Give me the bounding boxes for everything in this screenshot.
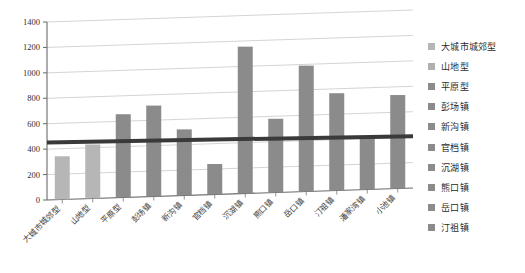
legend-item-label: 大城市城郊型 — [441, 40, 497, 53]
legend-item[interactable]: 官档镇 — [428, 137, 525, 157]
gridline — [47, 10, 413, 22]
legend-item[interactable]: 沉湖镇 — [428, 157, 525, 177]
gridline — [47, 61, 413, 73]
y-tick-label: 1200 — [23, 42, 40, 52]
svg-text:新沟镇: 新沟镇 — [160, 200, 184, 224]
x-tick-label: 小池镇 — [373, 193, 397, 217]
svg-text:潘家湾镇: 潘家湾镇 — [337, 194, 367, 224]
bar — [207, 164, 222, 195]
legend-swatch-icon — [428, 204, 435, 211]
legend-swatch-icon — [428, 83, 435, 90]
svg-text:山地型: 山地型 — [68, 203, 92, 227]
bar — [146, 106, 161, 197]
legend-swatch-icon — [428, 144, 435, 151]
svg-text:汀祖镇: 汀祖镇 — [312, 195, 336, 219]
svg-text:沉湖镇: 沉湖镇 — [221, 198, 245, 222]
y-tick-label: 0 — [36, 195, 40, 205]
svg-text:大城市城郊型: 大城市城郊型 — [21, 204, 62, 245]
legend-item[interactable]: 新沟镇 — [428, 117, 525, 137]
legend-swatch-icon — [428, 63, 435, 70]
gridline — [47, 163, 413, 175]
legend-item-label: 平原型 — [441, 80, 469, 93]
bar — [85, 144, 100, 198]
bar — [299, 66, 314, 192]
legend-item-label: 岳口镇 — [441, 201, 469, 214]
gridline — [47, 35, 413, 47]
y-tick-label: 400 — [27, 144, 40, 154]
bar — [116, 114, 131, 197]
svg-text:小池镇: 小池镇 — [373, 193, 397, 217]
x-tick-label: 岳口镇 — [282, 196, 306, 220]
legend-swatch-icon — [428, 123, 435, 130]
legend-item[interactable]: 彭场镇 — [428, 97, 525, 117]
bar — [55, 156, 70, 199]
x-tick-label: 汀祖镇 — [312, 195, 336, 219]
plot-area: 0200400600800100012001400大城市城郊型山地型平原型彭场镇… — [0, 0, 425, 273]
y-tick-label: 200 — [27, 170, 40, 180]
svg-text:平原型: 平原型 — [99, 203, 122, 226]
legend-item-label: 沉湖镇 — [441, 161, 469, 174]
chart-legend: 大城市城郊型 山地型 平原型 彭场镇 新沟镇 官档镇 沉湖镇 熊口镇 — [428, 36, 525, 238]
y-tick-label: 1400 — [23, 17, 40, 27]
legend-swatch-icon — [428, 184, 435, 191]
legend-item-label: 官档镇 — [441, 141, 469, 154]
legend-swatch-icon — [428, 164, 435, 171]
legend-item[interactable]: 山地型 — [428, 56, 525, 76]
x-tick-label: 彭场镇 — [129, 201, 153, 225]
y-tick-label: 600 — [27, 119, 40, 129]
bar-chart: 0200400600800100012001400大城市城郊型山地型平原型彭场镇… — [0, 0, 525, 273]
legend-item-label: 彭场镇 — [441, 100, 469, 113]
x-tick-label: 新沟镇 — [160, 200, 184, 224]
legend-swatch-icon — [428, 103, 435, 110]
legend-item-label: 汀祖镇 — [441, 221, 469, 234]
svg-text:彭场镇: 彭场镇 — [129, 201, 153, 225]
x-tick-label: 沉湖镇 — [221, 198, 245, 222]
legend-item[interactable]: 汀祖镇 — [428, 218, 525, 238]
svg-text:熊口镇: 熊口镇 — [251, 197, 275, 221]
svg-text:官档镇: 官档镇 — [190, 199, 214, 223]
x-tick-label: 潘家湾镇 — [337, 194, 367, 224]
bar — [268, 119, 283, 193]
legend-item[interactable]: 大城市城郊型 — [428, 36, 525, 56]
gridline — [47, 86, 413, 98]
gridline — [47, 112, 413, 124]
legend-item-label: 熊口镇 — [441, 181, 469, 194]
legend-swatch-icon — [428, 43, 435, 50]
legend-item-label: 新沟镇 — [441, 120, 469, 133]
x-tick-label: 大城市城郊型 — [21, 204, 62, 245]
y-tick-label: 1000 — [23, 68, 40, 78]
x-tick-label: 平原型 — [99, 203, 122, 226]
x-tick-label: 官档镇 — [190, 199, 214, 223]
legend-item[interactable]: 平原型 — [428, 76, 525, 96]
bar — [238, 47, 253, 194]
legend-swatch-icon — [428, 224, 435, 231]
svg-text:岳口镇: 岳口镇 — [282, 196, 306, 220]
legend-item[interactable]: 岳口镇 — [428, 198, 525, 218]
bar — [360, 136, 375, 189]
x-tick-label: 山地型 — [68, 203, 92, 227]
y-tick-label: 800 — [27, 93, 40, 103]
x-tick-label: 熊口镇 — [251, 197, 275, 221]
bar — [329, 93, 344, 190]
legend-item-label: 山地型 — [441, 60, 469, 73]
bar — [390, 95, 405, 188]
legend-item[interactable]: 熊口镇 — [428, 177, 525, 197]
plot-svg: 0200400600800100012001400大城市城郊型山地型平原型彭场镇… — [0, 0, 425, 273]
